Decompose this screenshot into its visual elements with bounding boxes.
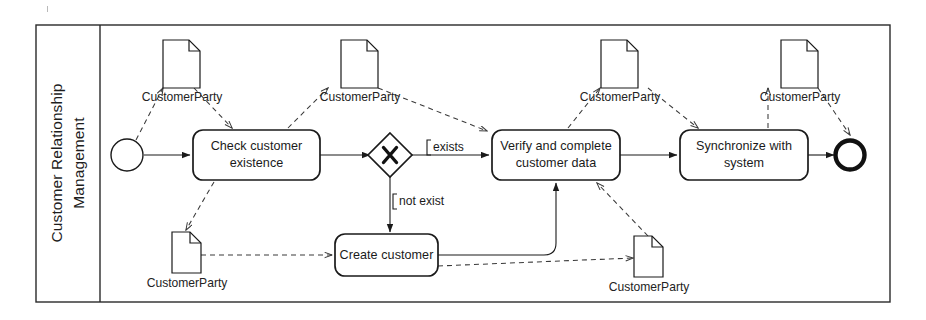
assoc-do6-to-verify	[597, 183, 648, 236]
assoc-start-to-do1	[136, 88, 163, 140]
bpmn-diagram-canvas: Customer Relationship Management Check c…	[0, 0, 926, 320]
assoc-create-to-do6	[438, 258, 633, 266]
task-create-customer[interactable]	[335, 234, 438, 276]
data-object-3[interactable]	[601, 40, 638, 88]
data-object-1[interactable]	[163, 40, 200, 88]
start-event[interactable]	[111, 139, 143, 171]
assoc-check-to-do5	[186, 182, 214, 230]
assoc-do2-to-verify	[378, 88, 487, 131]
task-check-customer-existence[interactable]	[193, 130, 320, 180]
assoc-verify-to-do3	[568, 88, 600, 128]
assoc-do4-to-end	[818, 88, 850, 135]
data-object-4[interactable]	[781, 40, 818, 88]
bracket-exists	[427, 140, 431, 155]
task-verify-and-complete-customer-data[interactable]	[492, 130, 620, 180]
data-object-2[interactable]	[341, 40, 378, 88]
assoc-do3-to-sync	[648, 88, 698, 128]
data-object-5[interactable]	[172, 232, 201, 273]
flow-create-to-verify	[438, 183, 556, 255]
diagram-vector-layer	[0, 0, 926, 320]
task-synchronize-with-system[interactable]	[680, 130, 808, 180]
data-object-6[interactable]	[634, 236, 663, 277]
assoc-do1-to-check	[194, 88, 232, 128]
end-event[interactable]	[836, 141, 865, 170]
exclusive-gateway[interactable]	[368, 133, 412, 177]
assoc-check-to-do2	[288, 88, 328, 128]
bracket-not-exist	[393, 194, 397, 209]
